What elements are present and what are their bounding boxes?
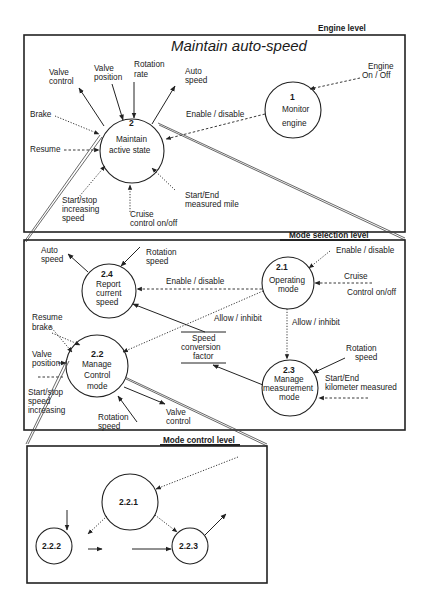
svg-text:conversion: conversion <box>181 343 221 352</box>
flow-arrow-valve-control <box>79 88 104 126</box>
svg-text:measured mile: measured mile <box>185 200 239 209</box>
engine-level-flows: Valve control Valve position Rotation ra… <box>30 60 394 228</box>
flow-label-valve-control: Valve <box>166 408 186 417</box>
process-1-monitor-engine[interactable]: 1 Monitor engine <box>265 82 321 138</box>
process-number: 2.2.2 <box>42 541 61 551</box>
process-name-line2: engine <box>282 119 307 128</box>
svg-text:mode: mode <box>278 285 299 294</box>
flow-label-resume: Resume <box>30 145 61 154</box>
svg-text:Manage: Manage <box>274 375 304 384</box>
flow-arrow-start-stop-increasing-speed <box>78 166 105 198</box>
svg-text:speed: speed <box>62 214 85 223</box>
flow-arrow-enable-disable-in <box>309 251 330 268</box>
process-number: 2.1 <box>276 262 288 272</box>
flow-arrow-2-2-1-to-2-2-2 <box>88 516 107 534</box>
svg-text:control on/off: control on/off <box>130 219 178 228</box>
flow-label-engine-on-off: Engine <box>368 62 394 71</box>
svg-text:speed: speed <box>41 255 64 264</box>
svg-text:Control: Control <box>84 371 111 380</box>
flow-label-allow-inhibit-2-3: Allow / inhibit <box>292 318 341 327</box>
flow-arrow-auto-speed <box>68 254 88 272</box>
svg-text:speed: speed <box>96 298 119 307</box>
dataflow-diagram: Engine level Maintain auto-speed 2 Maint… <box>0 0 427 598</box>
engine-level-title: Maintain auto-speed <box>171 37 308 54</box>
svg-text:speed: speed <box>146 257 169 266</box>
svg-text:Operating: Operating <box>269 276 305 285</box>
flow-label-valve-position: Valve <box>94 64 114 73</box>
mode-selection-level-label: Mode selection level <box>289 231 369 240</box>
flow-arrow-valve-control <box>124 387 165 404</box>
flow-arrow-auto-speed <box>152 86 175 124</box>
process-number: 1 <box>290 92 295 102</box>
process-name-line1: Maintain <box>116 135 147 144</box>
flow-arrow-brake <box>55 116 99 134</box>
process-2-1-operating-mode[interactable]: 2.1 Operating mode <box>262 257 314 309</box>
svg-text:factor: factor <box>193 352 214 361</box>
svg-text:speed: speed <box>98 422 121 431</box>
process-number: 2.2.1 <box>119 497 138 507</box>
flow-label-start-stop-speed-increasing: Start/stop <box>28 388 63 397</box>
process-2-2-manage-control-mode[interactable]: 2.2 Manage Control mode <box>66 335 128 397</box>
process-2-2-2[interactable]: 2.2.2 <box>36 528 72 564</box>
flow-arrow-2-3-to-store <box>213 365 263 385</box>
process-number: 2.4 <box>101 269 113 279</box>
svg-text:current: current <box>96 289 122 298</box>
svg-text:Report: Report <box>96 280 121 289</box>
flow-label-resume-brake: Resume <box>32 313 63 322</box>
svg-text:control: control <box>166 417 191 426</box>
process-number: 2.2.3 <box>179 541 198 551</box>
flow-label-enable-disable: Enable / disable <box>186 110 245 119</box>
mode-selection-level-frame: Mode selection level <box>24 231 405 430</box>
data-store-speed-conversion-factor[interactable]: Speed conversion factor <box>181 332 226 363</box>
flow-arrow-2-2-1-to-2-2-3 <box>155 515 177 532</box>
svg-text:Control on/off: Control on/off <box>347 288 397 297</box>
flow-label-valve-position: Valve <box>32 350 52 359</box>
flow-label-cruise-control: Cruise <box>130 210 154 219</box>
flow-label-auto-speed: Auto <box>185 67 202 76</box>
engine-level-label: Engine level <box>318 24 366 33</box>
svg-text:Manage: Manage <box>82 360 112 369</box>
process-name-line1: Monitor <box>282 105 310 114</box>
svg-text:control: control <box>49 77 74 86</box>
flow-arrow-resume-brake <box>52 333 80 345</box>
flow-label-enable-disable-2-4: Enable / disable <box>166 277 225 286</box>
flow-label-rotation-rate: Rotation <box>134 60 165 69</box>
flow-label-brake: Brake <box>30 110 52 119</box>
process-2-2-3[interactable]: 2.2.3 <box>172 528 208 564</box>
svg-text:increasing: increasing <box>62 205 100 214</box>
flow-label-rotation-speed-2-3: Rotation <box>346 344 377 353</box>
process-2-4-report-current-speed[interactable]: 2.4 Report current speed <box>82 264 136 318</box>
svg-text:speed: speed <box>355 353 378 362</box>
svg-text:position: position <box>94 73 123 82</box>
svg-text:kilometer measured: kilometer measured <box>325 383 397 392</box>
flow-label-cruise-control: Cruise <box>344 272 368 281</box>
svg-text:position: position <box>32 359 61 368</box>
process-2-3-manage-measurement-mode[interactable]: 2.3 Manage measurement mode <box>262 360 318 416</box>
flow-arrow-out-of-2-2-3 <box>205 514 226 535</box>
flow-label-auto-speed: Auto <box>41 246 58 255</box>
svg-text:mode: mode <box>87 382 108 391</box>
decomposition-lines-engine-to-mode <box>24 123 405 242</box>
svg-text:Speed: Speed <box>192 334 216 343</box>
flow-label-rotation-speed-2-4: Rotation <box>146 248 177 257</box>
svg-text:On / Off: On / Off <box>362 71 391 80</box>
flow-label-enable-disable-in: Enable / disable <box>336 246 395 255</box>
process-2-2-1[interactable]: 2.2.1 <box>102 474 158 530</box>
process-name-line2: active state <box>109 146 151 155</box>
process-number: 2.3 <box>283 365 295 375</box>
svg-text:measurement: measurement <box>263 384 314 393</box>
process-2-maintain-active-state[interactable]: 2 Maintain active state <box>100 118 164 183</box>
flow-label-start-end-kilometer: Start/End <box>325 374 360 383</box>
mode-control-level-label: Mode control level <box>163 436 235 445</box>
svg-text:speed: speed <box>185 76 208 85</box>
flow-arrow-rotation-speed-2-4 <box>121 247 140 266</box>
flow-arrow-engine-on-off <box>310 78 360 89</box>
svg-text:rate: rate <box>134 70 149 79</box>
process-number: 2 <box>129 118 134 128</box>
process-number: 2.2 <box>91 349 104 359</box>
svg-text:increasing: increasing <box>28 406 66 415</box>
flow-label-allow-inhibit-2-2: Allow / inhibit <box>214 314 263 323</box>
svg-text:brake: brake <box>32 323 53 332</box>
flow-arrow-valve-position <box>112 84 123 120</box>
svg-text:mode: mode <box>279 393 300 402</box>
